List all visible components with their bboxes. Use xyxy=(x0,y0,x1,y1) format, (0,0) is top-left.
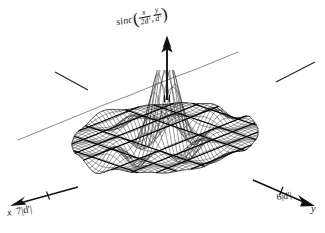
y-axis-label: y xyxy=(311,203,315,214)
z-axis-arg1-fraction: x2d' xyxy=(137,8,152,27)
x-axis-line xyxy=(10,187,78,206)
x-axis-label: x xyxy=(6,206,12,218)
y-axis-tick-value: 6|d'| xyxy=(276,190,292,202)
left-leader-line xyxy=(55,72,88,90)
z-axis-line xyxy=(163,36,172,103)
z-axis-function-name: sinc xyxy=(115,13,134,27)
mesh-generated-group xyxy=(72,56,258,174)
right-leader-line xyxy=(276,62,315,82)
sinc-surface-figure: sinc(x2d',yd') x7|d'| 6|d'| y xyxy=(0,0,325,233)
